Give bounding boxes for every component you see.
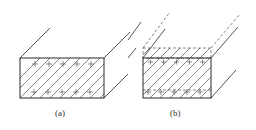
dashed-edge-top-left-b [143,12,170,48]
panel-label-b: (b) [170,108,181,118]
edge-bottom-right-a [104,74,128,98]
plus-charges-top-a [32,61,94,67]
edge-top-left-a [20,28,50,58]
hatch-pattern-a [0,58,140,98]
edge-top-right-a [104,32,130,58]
dashed-edge-top-right-b [211,14,240,48]
panel-label-a: (a) [55,108,65,118]
hatch-pattern-b [100,48,256,98]
dashed-extension-b [143,48,211,58]
edge-bottom-right-b [211,70,236,98]
edge-left-outer2-b [128,48,136,58]
diagram-canvas [0,0,256,130]
panel-a [0,28,140,98]
edge-left-outer-b [128,22,141,40]
panel-b [100,12,256,98]
